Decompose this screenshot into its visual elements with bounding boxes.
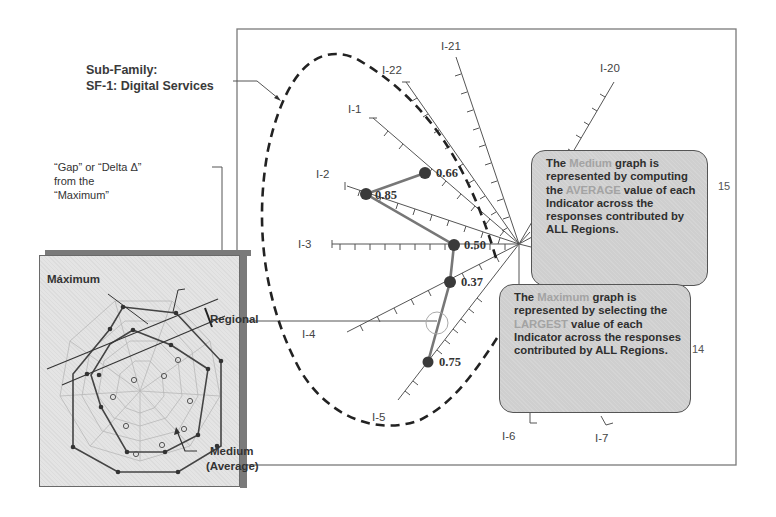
sub-family-leader xyxy=(233,81,279,99)
gap-note-line3: “Maximum” xyxy=(54,188,141,202)
axis-label-i1: I-1 xyxy=(348,103,361,115)
axis-label-i7: I-7 xyxy=(595,432,608,444)
axis-label-i21: I-21 xyxy=(441,40,461,52)
value-label-i3: 0.50 xyxy=(464,238,486,253)
axis-label-i3: I-3 xyxy=(298,238,311,250)
axis-label-i2: I-2 xyxy=(316,168,329,180)
side-number-14: 14 xyxy=(692,343,704,355)
value-label-i5: 0.75 xyxy=(439,355,461,370)
maximum-highlight: Maximum xyxy=(537,291,589,303)
axis-label-i6: I-6 xyxy=(502,430,515,442)
medium-callout: The Medium graph is represented by compu… xyxy=(531,150,708,286)
value-label-i4: 0.37 xyxy=(461,275,483,290)
inset-regional-label: Regional xyxy=(210,312,259,326)
medium-highlight: Medium xyxy=(569,157,612,169)
value-label-i2: 0.85 xyxy=(375,188,397,203)
side-number-15: 15 xyxy=(718,180,730,192)
gap-note-line1: “Gap” or “Delta Δ” xyxy=(54,160,141,174)
inset-maximum-label: Máximum xyxy=(47,272,100,286)
sub-family-name: SF-1: Digital Services xyxy=(86,78,214,94)
axis-label-i5: I-5 xyxy=(372,411,385,423)
gap-note-line2: from the xyxy=(54,174,141,188)
inset-average-label: (Average) xyxy=(206,459,259,473)
axis-label-i20: I-20 xyxy=(600,62,620,74)
largest-highlight: LARGEST xyxy=(514,318,568,330)
axis-label-i4: I-4 xyxy=(302,328,315,340)
maximum-callout: The Maximum graph is represented by sele… xyxy=(499,284,691,413)
inset-radar-panel: Máximum Regional Medium (Average) xyxy=(39,255,240,487)
sub-family-label: Sub-Family: SF-1: Digital Services xyxy=(86,62,214,94)
gap-note: “Gap” or “Delta Δ” from the “Maximum” xyxy=(54,160,141,202)
inset-medium-label: Medium xyxy=(210,444,253,458)
average-highlight: AVERAGE xyxy=(566,184,621,196)
sub-family-title: Sub-Family: xyxy=(86,62,214,78)
axis-label-i22: I-22 xyxy=(382,64,402,76)
value-label-i1: 0.66 xyxy=(436,166,458,181)
